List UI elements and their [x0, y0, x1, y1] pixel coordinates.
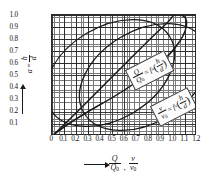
y-tick-label: 1.0	[0, 12, 18, 19]
y-axis-title-symbol: a	[25, 69, 34, 73]
x-axis-title-q-denominator: Q0	[109, 163, 121, 173]
y-axis-title-fraction: h d	[21, 55, 38, 62]
x-axis-title-q-numerator: Q	[110, 155, 119, 163]
y-tick-label: 0.5	[0, 72, 18, 79]
y-tick-label: 0.1	[0, 120, 18, 127]
y-tick-label: 0.4	[0, 84, 18, 91]
x-axis-title-separator: ,	[124, 163, 126, 173]
x-axis-title: Q Q0 , v v0	[84, 155, 138, 173]
x-tick-label: 1.2	[187, 136, 205, 143]
y-axis-title-numerator: h	[21, 55, 29, 62]
y-tick-label: 0.6	[0, 60, 18, 67]
y-tick-label: 0.9	[0, 24, 18, 31]
x-axis-title-fraction-v: v v0	[129, 155, 138, 173]
x-axis-title-v-numerator: v	[130, 155, 137, 163]
y-axis-title-equals: =	[25, 63, 34, 68]
x-axis-title-v-denominator: v0	[129, 163, 138, 173]
chart-figure: a = h d 1.0 0.9 0.8 0.7 0.6 0.5 0.4 0.3 …	[0, 0, 215, 182]
up-arrow-icon	[22, 88, 23, 114]
y-tick-label: 0.8	[0, 36, 18, 43]
y-axis-title-denominator: d	[29, 55, 38, 62]
y-tick-label: 0.7	[0, 48, 18, 55]
y-tick-label: 0.2	[0, 108, 18, 115]
plot-area: Q Q0 = fa ( h d ) v v0 = fv ( h d )	[51, 14, 196, 135]
y-tick-label: 0.3	[0, 96, 18, 103]
x-axis-title-fraction-q: Q Q0	[109, 155, 121, 173]
right-arrow-icon	[84, 164, 106, 165]
